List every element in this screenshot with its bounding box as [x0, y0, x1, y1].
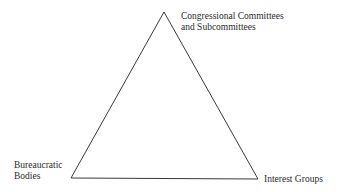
label-line: Congressional Committees	[181, 11, 284, 22]
label-line: Interest Groups	[264, 174, 323, 185]
node-label-bureaucratic-bodies: Bureaucratic Bodies	[14, 160, 63, 182]
iron-triangle-diagram: Congressional Committees and Subcommitte…	[0, 0, 351, 192]
node-label-interest-groups: Interest Groups	[264, 174, 323, 185]
label-line: Bodies	[14, 171, 63, 182]
label-line: and Subcommittees	[181, 22, 284, 33]
node-label-congressional-committees: Congressional Committees and Subcommitte…	[181, 11, 284, 33]
label-line: Bureaucratic	[14, 160, 63, 171]
triangle-outline	[71, 12, 258, 179]
